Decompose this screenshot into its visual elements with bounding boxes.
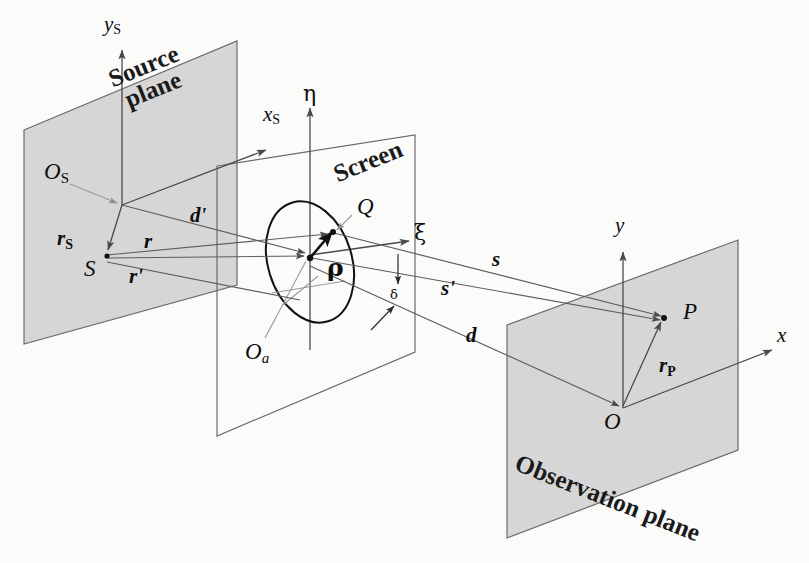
y-source-axis-label-text: y <box>104 12 113 36</box>
vector-s-prime-label: s' <box>441 278 455 299</box>
origin-source-label: OS <box>44 160 69 186</box>
aperture-origin-label-sub: a <box>262 350 270 366</box>
vector-rS-label-text: r <box>57 226 65 250</box>
x-axis-label: x <box>777 325 786 346</box>
vector-r-prime-label: r' <box>129 266 143 287</box>
source-point-dot <box>104 253 109 258</box>
x-source-axis-label-text: x <box>263 102 272 126</box>
x-source-axis-label: xS <box>263 104 280 127</box>
vector-d-label: d <box>466 325 477 346</box>
eta-axis-label: η <box>303 83 316 105</box>
origin-source-label-text: O <box>44 159 61 184</box>
observation-point-label: P <box>683 300 697 323</box>
y-axis-label: y <box>615 215 624 236</box>
vector-s-label: s <box>492 249 500 270</box>
origin-source-label-sub: S <box>61 170 69 186</box>
vector-rS-label-sub: S <box>65 237 73 252</box>
delta-annotation-label: δ <box>390 288 398 301</box>
vector-d-prime-label: d' <box>190 205 206 226</box>
diffraction-geometry-figure: Source plane Screen Observation plane yS… <box>0 0 809 563</box>
vector-r-label: r <box>144 231 152 252</box>
vector-rho-label: ρ <box>327 255 344 280</box>
y-source-axis-label: yS <box>104 14 121 37</box>
observation-point-dot <box>661 315 667 321</box>
vector-rP-label-sub: P <box>667 364 676 379</box>
aperture-point-dot <box>330 229 336 235</box>
aperture-point-label: Q <box>357 195 374 218</box>
y-source-axis-label-sub: S <box>113 22 121 37</box>
aperture-origin-label-text: O <box>245 339 262 364</box>
vector-rP-label-text: r <box>659 353 667 377</box>
xi-axis-label: ξ <box>414 222 426 244</box>
vector-rS-label: rS <box>57 228 73 252</box>
origin-observation-label: O <box>604 410 621 433</box>
aperture-origin-dot <box>307 255 313 261</box>
aperture-origin-label: Oa <box>245 340 269 366</box>
vector-rP-label: rP <box>659 355 676 379</box>
x-source-axis-label-sub: S <box>272 112 280 127</box>
source-point-label: S <box>84 257 96 280</box>
